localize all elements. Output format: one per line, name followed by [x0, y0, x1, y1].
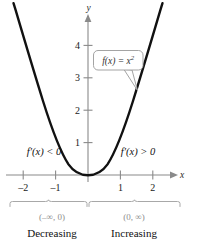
x-axis-label: x — [179, 170, 185, 180]
callout-exponent: 2 — [131, 54, 135, 61]
callout-label: f(x) = x2 — [102, 54, 135, 67]
y-tick-label: 4 — [75, 40, 80, 51]
x-axis-arrow-icon — [170, 172, 178, 179]
interval-braces-group — [10, 200, 180, 207]
callout-equals: = — [115, 56, 126, 66]
y-tick-label: 1 — [75, 137, 80, 148]
left-brace — [10, 200, 87, 207]
y-tick-label: 2 — [75, 105, 80, 116]
function-callout: f(x) = x2 — [94, 51, 144, 91]
callout-tail — [124, 70, 138, 91]
right-interval-trend: Increasing — [111, 227, 157, 239]
right-brace — [89, 200, 180, 207]
right-interval-notation: (0, ∞) — [123, 212, 144, 222]
x-tick-label: –2 — [17, 182, 28, 193]
x-tick-label: 2 — [150, 182, 155, 193]
left-derivative-label: f′(x) < 0 — [27, 146, 62, 158]
x-tick-group: –2 –1 1 2 — [17, 171, 155, 194]
y-axis-arrow-icon — [85, 14, 92, 22]
right-interval-group: (0, ∞) Increasing — [111, 212, 157, 239]
y-axis-label: y — [85, 3, 91, 13]
parabola-figure: x y –2 –1 1 2 1 2 3 4 — [0, 0, 198, 245]
figure-container: x y –2 –1 1 2 1 2 3 4 — [0, 0, 198, 245]
callout-arg: (x) — [105, 56, 116, 67]
left-interval-group: (–∞, 0) Decreasing — [27, 212, 77, 239]
left-interval-trend: Decreasing — [27, 227, 77, 239]
right-derivative-label: f′(x) > 0 — [121, 146, 156, 158]
left-interval-notation: (–∞, 0) — [39, 212, 65, 222]
y-tick-label: 3 — [75, 72, 80, 83]
y-tick-group: 1 2 3 4 — [75, 40, 93, 148]
x-tick-label: –1 — [50, 182, 61, 193]
x-tick-label: 1 — [118, 182, 123, 193]
